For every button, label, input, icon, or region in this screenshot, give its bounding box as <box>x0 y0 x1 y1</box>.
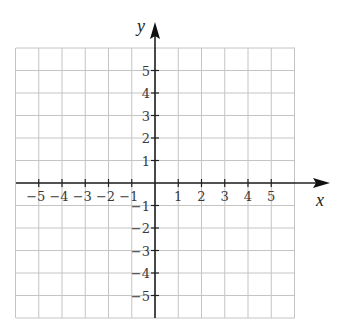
y-tick-label: −4 <box>131 266 150 281</box>
y-tick-label: −3 <box>131 244 150 259</box>
x-tick-label: 2 <box>197 189 205 204</box>
y-tick-label: 2 <box>142 131 150 146</box>
y-tick-label: 5 <box>142 64 150 79</box>
y-tick-label: −5 <box>131 289 150 304</box>
coordinate-plane: y x −5−4−3−2−112345 54321−1−2−3−4−5 <box>0 0 337 336</box>
x-tick-label: 5 <box>267 189 275 204</box>
x-tick-label: −4 <box>49 189 68 204</box>
y-axis-label: y <box>135 16 145 36</box>
y-tick-label: −1 <box>131 199 150 214</box>
x-tick-labels: −5−4−3−2−112345 <box>26 189 275 204</box>
x-axis-label: x <box>315 190 324 210</box>
x-tick-label: 3 <box>221 189 229 204</box>
y-tick-label: 4 <box>142 86 150 101</box>
y-tick-label: −2 <box>131 221 150 236</box>
x-tick-label: −2 <box>96 189 115 204</box>
y-tick-label: 3 <box>142 109 150 124</box>
x-tick-label: −5 <box>26 189 45 204</box>
x-tick-label: −3 <box>73 189 92 204</box>
y-tick-label: 1 <box>142 154 150 169</box>
x-tick-label: 1 <box>174 189 182 204</box>
x-tick-label: 4 <box>244 189 252 204</box>
